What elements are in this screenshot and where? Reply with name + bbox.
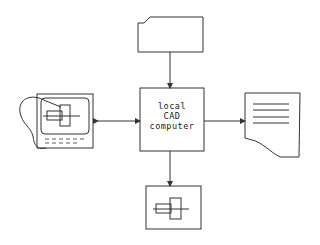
document-icon	[245, 93, 300, 157]
light-pen-icon	[20, 97, 61, 148]
plotter-display-icon	[146, 186, 201, 229]
label-line-1: local	[141, 101, 203, 111]
label-line-3: computer	[141, 121, 203, 131]
label-line-2: CAD	[141, 111, 203, 121]
cad-computer-label: local CAD computer	[141, 101, 203, 131]
monitor-icon	[37, 94, 93, 148]
punched-card-icon	[138, 17, 203, 52]
